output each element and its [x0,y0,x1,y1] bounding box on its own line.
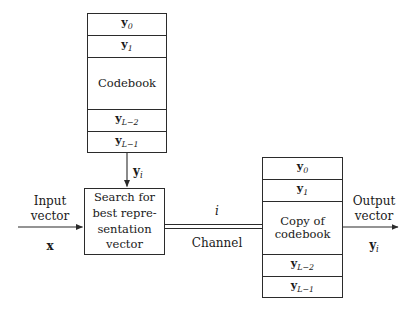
encoder-codebook-box: y0 y1 Codebook yL−2 yL−1 [87,13,167,153]
input-vector-symbol: x [14,239,86,254]
decoder-codebook-row-1: y1 [263,180,342,202]
channel-label: Channel [172,236,262,251]
decoder-codebook-box: y0 y1 Copy of codebook yL−2 yL−1 [262,157,343,298]
encoder-codebook-row-0: y0 [88,14,166,36]
vector-quantizer-diagram: y0 y1 Codebook yL−2 yL−1 Search for best… [0,0,420,315]
search-block-line-1: Search for [92,190,156,206]
copy-codeword-yLminus2-label: yL−2 [291,258,314,272]
decoder-codebook-title-cell: Copy of codebook [263,202,342,255]
codeword-yLminus2-label: yL−2 [115,113,138,127]
output-vector-label: Output vector [338,194,410,224]
encoder-codebook-row-Lminus2: yL−2 [88,110,166,132]
channel-index-symbol: i [172,204,262,219]
copy-codeword-yLminus1-label: yL−1 [291,280,314,294]
input-vector-line-1: Input [14,194,86,209]
output-vector-symbol: yi [338,238,410,255]
encoder-codebook-row-1: y1 [88,36,166,58]
copy-codeword-y0-label: y0 [297,161,308,175]
search-block-line-4: vector [92,237,156,253]
codeword-yi-label: yi [133,164,143,181]
search-block-line-2: best repre- [92,206,156,222]
encoder-codebook-title: Codebook [98,77,156,90]
decoder-codebook-title-line-2: codebook [275,228,331,241]
codeword-y1-label: y1 [121,39,132,53]
output-vector-line-1: Output [338,194,410,209]
codeword-y0-label: y0 [121,17,132,31]
encoder-codebook-title-cell: Codebook [88,58,166,110]
codeword-yLminus1-label: yL−1 [115,135,138,149]
encoder-codebook-row-Lminus1: yL−1 [88,132,166,153]
input-vector-line-2: vector [14,209,86,224]
connector-lines [0,0,420,315]
decoder-codebook-row-0: y0 [263,158,342,180]
output-vector-line-2: vector [338,209,410,224]
decoder-codebook-row-Lminus1: yL−1 [263,277,342,298]
copy-codeword-y1-label: y1 [297,183,308,197]
search-for-best-representation-vector-box: Search for best repre- sentation vector [84,188,165,255]
decoder-codebook-row-Lminus2: yL−2 [263,255,342,277]
search-block-text: Search for best repre- sentation vector [92,190,156,252]
search-block-line-3: sentation [92,222,156,238]
input-vector-label: Input vector [14,194,86,224]
